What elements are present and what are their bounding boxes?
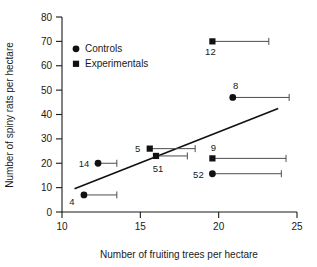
y-tick-label: 70 [41,36,53,47]
data-point-marker-square [153,153,159,159]
chart-legend: ControlsExperimentals [73,43,149,69]
chart-canvas: 01020304050607080 10152025 Number of fru… [0,0,317,267]
data-point-label: 12 [205,46,216,57]
data-point-marker-square [209,155,215,161]
data-point-marker-circle [81,192,88,199]
x-axis-title: Number of fruiting trees per hectare [100,249,258,260]
legend-label: Controls [85,43,122,54]
data-point-marker-circle [95,160,102,167]
data-point-label: 4 [69,196,74,207]
y-axis-ticks: 01020304050607080 [41,12,62,218]
y-axis-title: Number of spiny rats per hectare [4,42,15,188]
y-tick-label: 20 [41,158,53,169]
legend-label: Experimentals [85,58,148,69]
x-tick-label: 25 [291,221,303,232]
y-tick-label: 30 [41,133,53,144]
x-tick-label: 20 [213,221,225,232]
y-tick-label: 10 [41,182,53,193]
scatter-plot-figure: 01020304050607080 10152025 Number of fru… [0,0,317,267]
y-tick-label: 50 [41,85,53,96]
data-point-label: 8 [233,80,238,91]
data-point-marker-square [209,38,215,44]
data-point-label: 51 [153,163,164,174]
data-point-marker-square [147,146,153,152]
data-point-marker-circle [209,170,216,177]
x-tick-label: 15 [135,221,147,232]
data-point-label: 5 [135,143,140,154]
data-point-labels: 414528551912 [69,46,238,207]
x-tick-label: 10 [56,221,68,232]
data-point-label: 9 [211,142,216,153]
data-point-label: 14 [79,158,90,169]
data-point-label: 52 [193,169,204,180]
legend-marker-square [73,61,79,67]
y-tick-label: 0 [46,207,52,218]
y-tick-label: 40 [41,109,53,120]
x-axis-ticks: 10152025 [56,212,303,232]
y-tick-label: 60 [41,60,53,71]
y-tick-label: 80 [41,12,53,23]
legend-marker-circle [73,45,80,52]
data-point-marker-circle [229,94,236,101]
